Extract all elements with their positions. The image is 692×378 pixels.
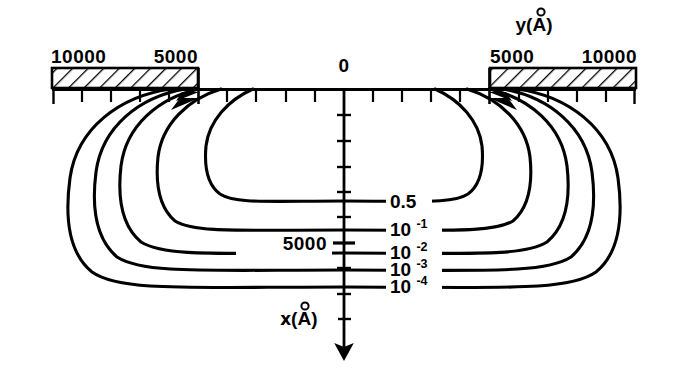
diffusion-contour-figure: 10000 5000 0 5000 10000 y(A) x(A) 5000 0…	[0, 0, 692, 378]
y-axis-title: y(A)	[516, 8, 553, 35]
x-axis-label-5000-fg: 5000	[283, 233, 327, 254]
x-axis-title-text-fg: x(A)	[281, 308, 318, 329]
y-axis-label-right-10000: 10000	[582, 46, 637, 67]
contour-10e-1-exp: -1	[416, 217, 427, 231]
mask-block-right	[490, 68, 636, 88]
y-axis-title-text: y(A)	[516, 14, 553, 35]
figure-canvas: 10000 5000 0 5000 10000 y(A) x(A) 5000 0…	[0, 0, 692, 378]
y-axis-label-origin: 0	[338, 55, 349, 76]
y-axis-label-left-5000: 5000	[154, 46, 198, 67]
contour-10e-4-exp: -4	[416, 274, 427, 288]
y-axis-label-right-5000: 5000	[490, 46, 534, 67]
y-axis-label-left-10000: 10000	[51, 46, 106, 67]
contour-10e-1-text: 10	[390, 219, 411, 240]
contour-10e-3-exp: -3	[416, 257, 427, 271]
contour-0.5-text: 0.5	[390, 191, 417, 212]
mask-block-left	[52, 68, 198, 88]
contour-10e-2-exp: -2	[416, 240, 427, 254]
contour-10e-4-text: 10	[390, 276, 411, 297]
contour-label-0.5-fg: 0.5	[390, 191, 417, 212]
contour-label-group-foreground: 0.5 10 -1 10 -2 10 -3 10 -4 5000 x(A)	[281, 191, 428, 329]
